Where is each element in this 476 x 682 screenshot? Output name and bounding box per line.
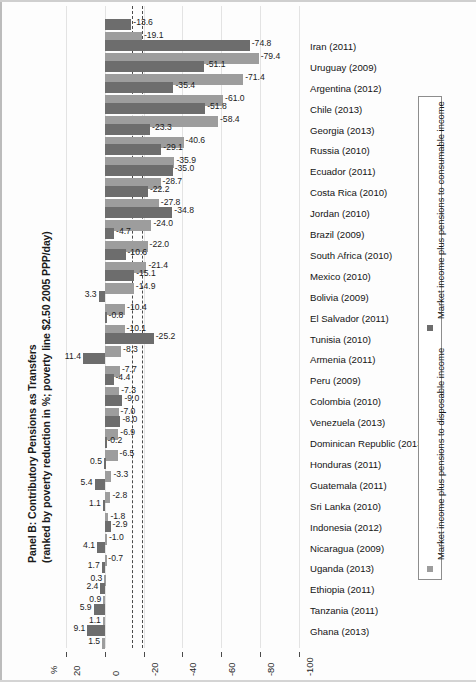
bar-consumable — [105, 207, 172, 218]
bar-consumable — [105, 82, 173, 93]
bar-value-label: 1.5 — [88, 636, 100, 646]
x-tick-label: -80 — [265, 662, 276, 676]
x-tick-mark — [260, 652, 261, 657]
legend-item[interactable]: Market income plus pensions to disposabl… — [419, 338, 441, 579]
chart-title: Panel B: Contributory Pensions as Transf… — [26, 344, 38, 563]
category-label: El Salvador (2011) — [310, 313, 389, 324]
bar-value-label: -35.0 — [175, 163, 195, 173]
bar-value-label: 5.4 — [81, 477, 93, 487]
bar-value-label: -9.0 — [124, 393, 139, 403]
bar-value-label: 2.4 — [86, 581, 98, 591]
bar-value-label: 9.1 — [73, 623, 85, 633]
category-label: Argentina (2012) — [310, 83, 381, 94]
bar-value-label: -2.9 — [113, 519, 128, 529]
bar-consumable — [100, 583, 105, 594]
bar-value-label: -13.6 — [133, 17, 153, 27]
category-label: Chile (2013) — [310, 104, 362, 115]
bar-consumable — [104, 458, 106, 469]
x-tick-label: -60 — [226, 662, 237, 676]
category-label: South Africa (2010) — [310, 250, 392, 261]
category-label: Dominican Republic (2013) — [310, 438, 426, 449]
x-tick-label: -100 — [304, 657, 315, 676]
legend-swatch-disposable-icon — [427, 566, 433, 572]
bar-value-label: -29.1 — [163, 142, 183, 152]
bar-consumable — [105, 333, 154, 344]
page-frame-top — [0, 0, 476, 2]
bar-consumable — [105, 249, 126, 260]
bar-consumable — [97, 542, 105, 553]
bar-consumable — [103, 500, 105, 511]
bar-consumable — [105, 270, 134, 281]
category-label: Armenia (2011) — [310, 354, 375, 365]
category-label: Indonesia (2012) — [310, 522, 382, 533]
chart-subtitle: (ranked by poverty reduction in %; pover… — [40, 231, 52, 563]
bar-consumable — [105, 144, 161, 155]
legend-label: Market income plus pensions to disposabl… — [435, 348, 446, 560]
category-label: Tanzania (2011) — [310, 605, 378, 616]
x-tick-mark — [144, 652, 145, 657]
bar-value-label: 1.7 — [88, 560, 100, 570]
bar-consumable — [105, 416, 120, 427]
bar-consumable — [105, 521, 111, 532]
bar-consumable — [105, 228, 114, 239]
chart-page: Panel B: Contributory Pensions as Transf… — [0, 0, 476, 682]
bar-consumable — [105, 186, 148, 197]
bar-consumable — [105, 165, 173, 176]
category-label: Venezuela (2013) — [310, 417, 385, 428]
bar-consumable — [102, 562, 105, 573]
category-label: Costa Rica (2010) — [310, 187, 387, 198]
category-label: Iran (2011) — [310, 41, 356, 52]
category-label: Russia (2010) — [310, 145, 370, 156]
category-label: Ecuador (2011) — [310, 166, 375, 177]
bar-consumable — [105, 61, 204, 72]
bar-value-label: -10.6 — [128, 247, 148, 257]
bar-value-label: -15.1 — [136, 268, 156, 278]
category-label: Jordan (2010) — [310, 208, 370, 219]
bar-consumable — [105, 40, 250, 51]
bar-value-label: 11.4 — [65, 351, 81, 361]
category-label: Uganda (2013) — [310, 563, 374, 574]
category-label: Honduras (2011) — [310, 459, 381, 470]
x-axis-percent-label: % — [48, 666, 59, 674]
category-label: Tunisia (2010) — [310, 334, 371, 345]
bar-consumable — [99, 291, 105, 302]
bar-consumable — [105, 395, 122, 406]
bar-value-label: 1.1 — [89, 498, 101, 508]
bar-value-label: -23.3 — [152, 122, 172, 132]
category-label: Bolivia (2009) — [310, 292, 369, 303]
category-label: Guatemala (2011) — [310, 480, 387, 491]
category-label: Ethiopia (2011) — [310, 584, 374, 595]
category-label: Sri Lanka (2010) — [310, 501, 381, 512]
bar-value-label: 4.1 — [83, 540, 95, 550]
plot-area: -13.6-19.1-74.8-79.4-51.1-71.4-35.4-61.0… — [60, 6, 305, 654]
category-label: Mexico (2010) — [310, 271, 371, 282]
bar-consumable — [95, 479, 105, 490]
bar-consumable — [83, 353, 105, 364]
category-label: Uruguay (2009) — [310, 62, 377, 73]
category-label: Brazil (2009) — [310, 229, 364, 240]
category-label: Nicaragua (2009) — [310, 543, 384, 554]
legend-item[interactable]: Market income plus pensions to consumabl… — [419, 97, 441, 338]
legend-label: Market income plus pensions to consumabl… — [435, 101, 446, 319]
category-label: Colombia (2010) — [310, 396, 381, 407]
bar-value-label: -8.0 — [122, 414, 137, 424]
legend-swatch-consumable-icon — [427, 325, 433, 331]
bar-value-label: -0.2 — [107, 435, 122, 445]
bar-value-label: -74.8 — [252, 38, 272, 48]
bar-disposable — [102, 638, 105, 649]
x-tick-mark — [66, 652, 67, 657]
bar-value-label: -22.2 — [150, 184, 170, 194]
x-tick-label: -40 — [187, 662, 198, 676]
category-label: Ghana (2013) — [310, 626, 369, 637]
bar-value-label: -51.8 — [207, 101, 227, 111]
x-tick-mark — [299, 652, 300, 657]
bar-consumable — [94, 604, 105, 615]
x-tick-label: -20 — [149, 662, 160, 676]
bar-consumable — [105, 312, 107, 323]
bar-consumable — [87, 625, 105, 636]
category-label: Peru (2009) — [310, 375, 361, 386]
x-tick-mark — [105, 652, 106, 657]
x-tick-label: 0 — [110, 671, 121, 676]
bar-value-label: -25.2 — [156, 331, 176, 341]
bar-value-label: -34.8 — [174, 205, 194, 215]
